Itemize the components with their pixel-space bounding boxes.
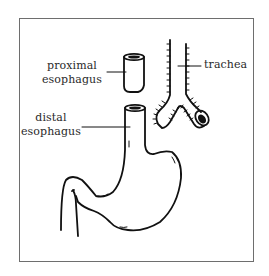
label-proximal-esophagus: proximal esophagus (40, 59, 104, 87)
proximal-esophagus-pouch (124, 54, 144, 92)
label-distal-line1: distal (19, 111, 83, 125)
label-distal-esophagus: distal esophagus (19, 111, 83, 139)
label-distal-line2: esophagus (19, 125, 83, 139)
label-proximal-line1: proximal (40, 59, 104, 73)
label-trachea-text: trachea (204, 58, 247, 72)
trachea (153, 40, 212, 128)
label-trachea: trachea (204, 58, 247, 72)
label-proximal-line2: esophagus (40, 73, 104, 87)
